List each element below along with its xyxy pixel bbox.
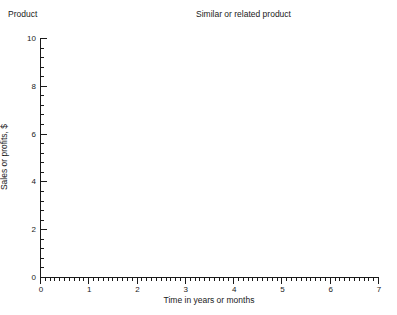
x-tick-minor bbox=[79, 277, 80, 281]
y-tick-major: 4 bbox=[40, 181, 47, 182]
x-tick-label: 4 bbox=[232, 286, 236, 294]
x-tick-minor bbox=[349, 277, 350, 281]
x-tick-minor bbox=[103, 277, 104, 281]
x-tick-minor bbox=[166, 277, 167, 281]
y-tick-label: 10 bbox=[27, 35, 36, 43]
x-tick-minor bbox=[219, 277, 220, 281]
x-tick-minor bbox=[301, 277, 302, 281]
x-tick-minor bbox=[50, 277, 51, 281]
x-tick-minor bbox=[132, 277, 133, 281]
x-tick-label: 7 bbox=[377, 286, 381, 294]
y-tick-minor bbox=[40, 48, 44, 49]
x-tick-major: 4 bbox=[233, 277, 234, 284]
x-tick-label: 5 bbox=[280, 286, 284, 294]
y-tick-label: 8 bbox=[32, 83, 36, 91]
x-tick-label: 0 bbox=[39, 286, 43, 294]
x-tick-minor bbox=[359, 277, 360, 281]
x-tick-minor bbox=[170, 277, 171, 281]
y-tick-minor bbox=[40, 248, 44, 249]
x-tick-minor bbox=[190, 277, 191, 281]
x-tick-minor bbox=[296, 277, 297, 281]
x-tick-minor bbox=[98, 277, 99, 281]
x-tick-minor bbox=[54, 277, 55, 281]
y-tick-minor bbox=[40, 258, 44, 259]
x-tick-minor bbox=[83, 277, 84, 281]
x-tick-minor bbox=[108, 277, 109, 281]
y-tick-label: 0 bbox=[32, 274, 36, 282]
y-tick-label: 2 bbox=[32, 226, 36, 234]
x-tick-major: 3 bbox=[185, 277, 186, 284]
y-tick-minor bbox=[40, 76, 44, 77]
x-tick-minor bbox=[195, 277, 196, 281]
y-tick-major: 2 bbox=[40, 229, 47, 230]
x-tick-minor bbox=[59, 277, 60, 281]
x-tick-minor bbox=[204, 277, 205, 281]
plot-area: 0246810 01234567 bbox=[40, 38, 378, 277]
x-tick-minor bbox=[74, 277, 75, 281]
x-tick-minor bbox=[310, 277, 311, 281]
x-tick-minor bbox=[291, 277, 292, 281]
y-tick-minor bbox=[40, 239, 44, 240]
x-tick-minor bbox=[228, 277, 229, 281]
x-tick-major: 0 bbox=[40, 277, 41, 284]
x-tick-minor bbox=[69, 277, 70, 281]
x-tick-minor bbox=[127, 277, 128, 281]
x-tick-minor bbox=[175, 277, 176, 281]
x-tick-minor bbox=[199, 277, 200, 281]
x-axis-title: Time in years or months bbox=[40, 296, 378, 305]
y-tick-minor bbox=[40, 267, 44, 268]
x-tick-minor bbox=[151, 277, 152, 281]
x-tick-major: 7 bbox=[378, 277, 379, 284]
x-tick-minor bbox=[223, 277, 224, 281]
x-tick-minor bbox=[248, 277, 249, 281]
y-tick-minor bbox=[40, 57, 44, 58]
x-tick-minor bbox=[306, 277, 307, 281]
y-tick-minor bbox=[40, 124, 44, 125]
y-tick-major: 6 bbox=[40, 134, 47, 135]
x-tick-label: 2 bbox=[135, 286, 139, 294]
x-tick-minor bbox=[112, 277, 113, 281]
y-axis-title-text: Sales or profits, $ bbox=[0, 124, 8, 190]
x-tick-minor bbox=[161, 277, 162, 281]
x-tick-minor bbox=[339, 277, 340, 281]
x-tick-minor bbox=[344, 277, 345, 281]
y-tick-minor bbox=[40, 210, 44, 211]
y-axis-line bbox=[40, 38, 41, 277]
y-tick-minor bbox=[40, 162, 44, 163]
product-life-cycle-worksheet: Product Similar or related product Sales… bbox=[0, 0, 397, 315]
x-tick-major: 6 bbox=[330, 277, 331, 284]
y-tick-minor bbox=[40, 105, 44, 106]
y-tick-major: 8 bbox=[40, 86, 47, 87]
x-tick-major: 5 bbox=[281, 277, 282, 284]
x-tick-minor bbox=[180, 277, 181, 281]
y-tick-minor bbox=[40, 67, 44, 68]
y-axis-title: Sales or profits, $ bbox=[0, 124, 8, 190]
x-tick-minor bbox=[141, 277, 142, 281]
x-tick-minor bbox=[262, 277, 263, 281]
y-tick-label: 4 bbox=[32, 178, 36, 186]
x-tick-minor bbox=[93, 277, 94, 281]
x-tick-minor bbox=[214, 277, 215, 281]
x-tick-minor bbox=[354, 277, 355, 281]
y-tick-minor bbox=[40, 153, 44, 154]
x-tick-label: 3 bbox=[184, 286, 188, 294]
x-tick-minor bbox=[209, 277, 210, 281]
x-tick-minor bbox=[286, 277, 287, 281]
x-tick-label: 1 bbox=[87, 286, 91, 294]
x-tick-minor bbox=[272, 277, 273, 281]
similar-product-label: Similar or related product bbox=[196, 10, 291, 19]
x-tick-minor bbox=[368, 277, 369, 281]
x-tick-label: 6 bbox=[328, 286, 332, 294]
x-tick-minor bbox=[117, 277, 118, 281]
product-label: Product bbox=[8, 10, 37, 19]
y-tick-minor bbox=[40, 114, 44, 115]
x-tick-minor bbox=[243, 277, 244, 281]
y-tick-minor bbox=[40, 201, 44, 202]
x-tick-minor bbox=[373, 277, 374, 281]
x-tick-major: 1 bbox=[88, 277, 89, 284]
y-tick-minor bbox=[40, 191, 44, 192]
y-tick-major: 0 bbox=[40, 277, 47, 278]
x-tick-minor bbox=[267, 277, 268, 281]
x-tick-minor bbox=[315, 277, 316, 281]
y-tick-label: 6 bbox=[32, 131, 36, 139]
